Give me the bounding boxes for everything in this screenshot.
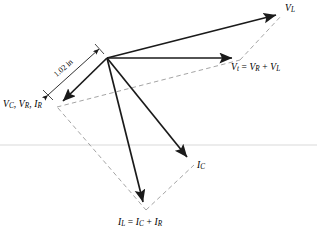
- label-v-t-sum: Vt = VR + VL: [231, 63, 280, 73]
- label-i-r-sum-subscript: R: [158, 220, 163, 228]
- label-v-l-sum-subscript: L: [276, 65, 280, 73]
- equals-sign-voltage: =: [242, 62, 247, 72]
- label-v-l: VL: [285, 4, 295, 14]
- label-i-l-sum: IL = IC + IR: [118, 218, 162, 228]
- vector-diagram-canvas: [0, 0, 317, 238]
- label-v-l-subscript: L: [291, 6, 295, 14]
- label-v-t-subscript: t: [237, 65, 239, 73]
- phasor-diagram: VL Vt = VR + VL VC, VR, IR IC IL = IC + …: [0, 0, 317, 238]
- vector-v-l: [107, 15, 276, 58]
- label-i-l-subscript: L: [121, 220, 125, 228]
- dashed-line-vr-to-vt: [57, 60, 240, 107]
- label-v-c-v-r-i-r: VC, VR, IR: [3, 100, 42, 110]
- comma-2: ,: [29, 99, 31, 109]
- equals-sign-current: =: [128, 217, 133, 227]
- dashed-line-il-to-ic: [146, 165, 194, 210]
- label-i-c-sum-subscript: C: [139, 220, 144, 228]
- plus-sign-current: +: [146, 217, 151, 227]
- label-i-c: IC: [197, 161, 205, 171]
- label-v-r-subscript: R: [255, 65, 260, 73]
- dimension-tick-end: [95, 44, 104, 54]
- label-i-c-subscript: C: [200, 163, 205, 171]
- comma-1: ,: [14, 99, 16, 109]
- label-i-r-subscript: R: [37, 102, 42, 110]
- plus-sign-voltage: +: [262, 62, 267, 72]
